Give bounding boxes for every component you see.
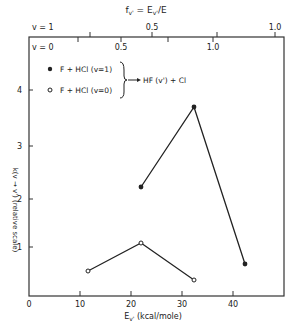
x-tick-30: 30	[177, 300, 187, 309]
top-v0-tick-1.0: 1.0	[207, 43, 220, 52]
top-v1-ticks	[90, 32, 275, 37]
data-point	[86, 269, 90, 273]
data-point	[192, 105, 197, 110]
series-v1-line	[141, 107, 245, 264]
series-v0-line	[88, 243, 194, 280]
x-tick-20: 20	[126, 300, 136, 309]
data-point	[139, 185, 144, 190]
data-point	[192, 278, 196, 282]
data-point	[243, 262, 248, 267]
x-axis-label: Ev' (kcal/mole)	[124, 312, 182, 322]
x-ticks	[80, 291, 233, 296]
legend-open-marker	[48, 88, 52, 92]
x-tick-40: 40	[228, 300, 238, 309]
legend-product: HF (v') + Cl	[143, 76, 186, 85]
y-axis-label: k(v → v') (relative scale)	[11, 168, 19, 253]
top-row-v1-label: v = 1	[32, 23, 54, 32]
y-tick-4: 4	[17, 86, 22, 95]
top-v0-ticks	[78, 37, 213, 42]
top-v0-tick-0.5: 0.5	[115, 43, 128, 52]
x-tick-10: 10	[75, 300, 85, 309]
top-v1-tick-1.0: 1.0	[269, 23, 282, 32]
y-tick-3: 3	[17, 142, 22, 151]
top-v1-tick-0.5: 0.5	[146, 23, 159, 32]
legend-entry-v1: F + HCl (v=1)	[60, 65, 112, 74]
legend-filled-marker	[48, 67, 52, 71]
x-tick-0: 0	[26, 300, 31, 309]
legend-entry-v0: F + HCl (v=0)	[60, 86, 112, 95]
data-point	[139, 241, 143, 245]
top-row-v0-label: v = 0	[32, 43, 54, 52]
arrow-head-icon	[137, 78, 141, 82]
chart: fv' = Ev'/E v = 1 0.5 1.0 v = 0 0.5 1.0 …	[0, 0, 293, 326]
top-axis-title: fv' = Ev'/E	[125, 5, 167, 16]
legend-brace	[120, 62, 127, 98]
